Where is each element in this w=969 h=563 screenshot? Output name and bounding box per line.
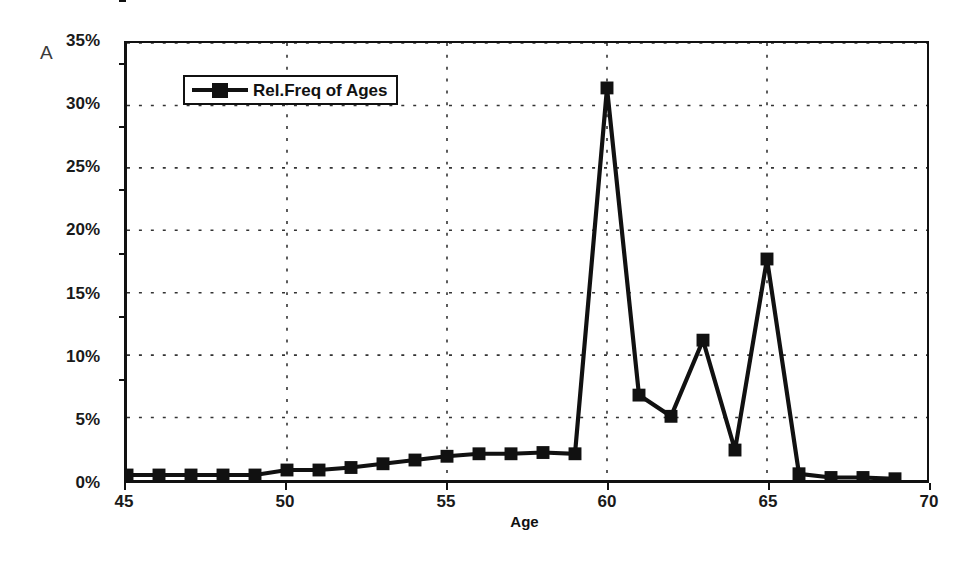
y-tick-label: 25% <box>66 157 100 177</box>
y-tick-label: 15% <box>66 284 100 304</box>
data-point-marker <box>697 334 710 347</box>
x-tick-mark <box>446 483 448 490</box>
x-tick-label: 70 <box>920 492 939 512</box>
data-point-marker <box>633 389 646 402</box>
data-point-marker <box>537 446 550 459</box>
data-point-marker <box>857 471 870 480</box>
y-axis-tick-labels: 0%5%10%15%20%25%30%35% <box>0 41 114 483</box>
y-tick-mark <box>119 126 126 128</box>
data-point-marker <box>345 461 358 474</box>
y-tick-mark <box>119 63 126 65</box>
y-tick-label: 0% <box>75 473 100 493</box>
y-tick-label: 35% <box>66 31 100 51</box>
data-point-marker <box>217 469 230 480</box>
x-tick-label: 65 <box>759 492 778 512</box>
data-point-marker <box>377 457 390 470</box>
y-tick-mark <box>119 0 126 2</box>
data-point-marker <box>761 253 774 266</box>
x-tick-mark <box>768 483 770 490</box>
data-point-marker <box>793 467 806 480</box>
data-point-marker <box>569 447 582 460</box>
data-point-marker <box>665 410 678 423</box>
x-tick-label: 55 <box>437 492 456 512</box>
x-tick-label: 45 <box>115 492 134 512</box>
data-point-marker <box>889 472 902 480</box>
x-tick-mark <box>929 483 931 490</box>
y-tick-mark <box>119 316 126 318</box>
y-tick-label: 20% <box>66 220 100 240</box>
data-point-marker <box>313 464 326 477</box>
data-point-marker <box>153 469 166 480</box>
y-tick-mark <box>119 379 126 381</box>
x-tick-label: 50 <box>276 492 295 512</box>
data-point-marker <box>185 469 198 480</box>
x-tick-mark <box>607 483 609 490</box>
data-point-marker <box>505 447 518 460</box>
series-line <box>127 88 895 479</box>
x-axis-title-wrap: Age <box>0 513 969 530</box>
data-point-marker <box>409 454 422 467</box>
x-tick-mark <box>124 483 126 490</box>
data-series-layer <box>127 43 927 480</box>
data-point-marker <box>441 450 454 463</box>
data-point-marker <box>825 471 838 480</box>
data-point-marker <box>729 444 742 457</box>
data-point-marker <box>473 447 486 460</box>
chart-page: A 0%5%10%15%20%25%30%35% 455055606570 Ag… <box>0 0 969 563</box>
data-point-marker <box>127 469 133 480</box>
y-tick-label: 30% <box>66 94 100 114</box>
x-axis-title: Age <box>510 513 538 530</box>
legend-marker-icon <box>192 81 248 99</box>
plot-area <box>124 41 929 483</box>
y-tick-label: 5% <box>75 410 100 430</box>
y-tick-label: 10% <box>66 347 100 367</box>
legend-label: Rel.Freq of Ages <box>253 82 387 99</box>
y-tick-mark <box>119 189 126 191</box>
y-tick-mark <box>119 253 126 255</box>
x-tick-mark <box>285 483 287 490</box>
data-point-marker <box>281 464 294 477</box>
data-point-marker <box>249 469 262 480</box>
x-tick-label: 60 <box>598 492 617 512</box>
data-point-marker <box>601 82 614 95</box>
chart-legend: Rel.Freq of Ages <box>183 75 398 105</box>
